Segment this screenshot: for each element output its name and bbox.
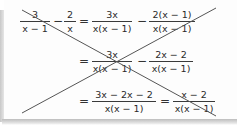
- strike-line-backslash: [22, 10, 216, 116]
- cross-out-strike-icon: [0, 0, 237, 129]
- strike-line-slash: [22, 8, 216, 113]
